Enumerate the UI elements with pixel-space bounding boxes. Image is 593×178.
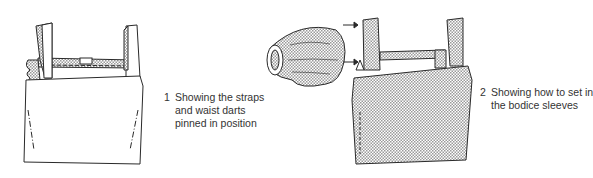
figure-1-bodice xyxy=(24,23,143,164)
figure-1-caption-line: pinned in position xyxy=(175,117,264,130)
figure-2-caption-line: Showing how to set in xyxy=(491,86,593,99)
figure-2-sleeve xyxy=(267,27,345,86)
figure-1-number: 1 xyxy=(164,91,170,104)
arrow-icon xyxy=(343,22,358,65)
figure-2-caption-line: the bodice sleeves xyxy=(491,99,593,112)
figure-1-caption-line: and waist darts xyxy=(175,104,264,117)
figure-1-caption-line: Showing the straps xyxy=(175,91,264,104)
figure-2-bodice xyxy=(352,18,472,164)
figure-2-number: 2 xyxy=(480,86,486,99)
